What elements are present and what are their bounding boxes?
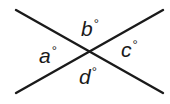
angle-variable-a: a xyxy=(39,44,51,67)
degree-symbol-c: ° xyxy=(133,37,138,52)
angle-label-d: d° xyxy=(79,66,97,87)
degree-symbol-a: ° xyxy=(52,43,57,58)
degree-symbol-d: ° xyxy=(92,64,97,79)
lines-canvas xyxy=(0,0,170,104)
angle-label-a: a° xyxy=(39,45,57,66)
angle-label-b: b° xyxy=(81,18,99,39)
angle-variable-b: b xyxy=(81,17,93,40)
angle-variable-c: c xyxy=(121,38,132,61)
intersecting-lines-diagram: a° b° c° d° xyxy=(0,0,170,104)
degree-symbol-b: ° xyxy=(94,16,99,31)
angle-variable-d: d xyxy=(79,65,91,88)
angle-label-c: c° xyxy=(121,39,138,60)
